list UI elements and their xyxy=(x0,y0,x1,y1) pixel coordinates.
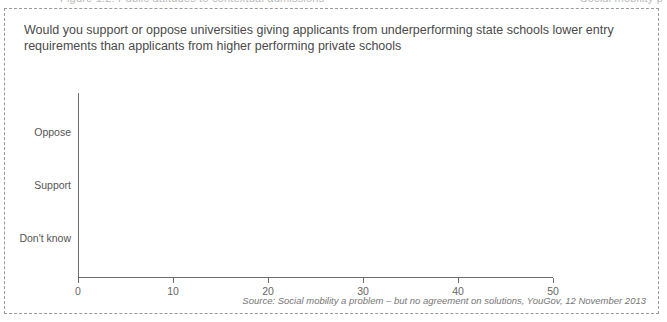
bar-row[interactable]: 22% xyxy=(79,214,288,262)
x-axis-line xyxy=(78,277,553,278)
category-label: Don't know xyxy=(19,232,71,244)
bar-row[interactable]: 29% xyxy=(79,161,355,209)
x-tick-0 xyxy=(78,278,79,283)
source-note: Source: Social mobility a problem – but … xyxy=(242,295,646,306)
x-tick-10 xyxy=(173,278,174,283)
category-label: Support xyxy=(34,179,71,191)
x-tick-label-10: 10 xyxy=(167,285,179,297)
category-label-slot: Support xyxy=(5,161,71,209)
x-tick-20 xyxy=(268,278,269,283)
x-tick-label-0: 0 xyxy=(75,285,81,297)
category-label-slot: Oppose xyxy=(5,108,71,156)
category-label: Oppose xyxy=(34,126,71,138)
category-label-slot: Don't know xyxy=(5,214,71,262)
plot-area: 01020304050 49%Oppose29%Support22%Don't … xyxy=(5,9,660,315)
cut-off-heading-right: Social mobility p xyxy=(580,0,663,4)
cut-off-heading-left: Figure 1.2: Public attitudes to contextu… xyxy=(60,0,324,4)
cut-off-heading-strip: Figure 1.2: Public attitudes to contextu… xyxy=(0,0,667,7)
chart-figure: Would you support or oppose universities… xyxy=(4,8,659,314)
x-tick-50 xyxy=(553,278,554,283)
bar-row[interactable]: 49% xyxy=(79,108,545,156)
x-tick-30 xyxy=(363,278,364,283)
x-tick-40 xyxy=(458,278,459,283)
